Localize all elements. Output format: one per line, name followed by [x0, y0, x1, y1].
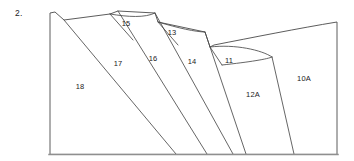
- unit-label-12a: 12A: [246, 90, 260, 99]
- unit-label-14: 14: [188, 57, 197, 66]
- unit-label-18: 18: [76, 82, 85, 91]
- unit-label-13: 13: [168, 28, 177, 37]
- figure-container: 2. 18 17 15 16 13 14 11 12A 10A: [0, 0, 354, 161]
- unit-label-10a: 10A: [297, 74, 311, 83]
- cross-section-diagram: 18 17 15 16 13 14 11 12A 10A: [0, 0, 354, 161]
- unit-label-16: 16: [149, 54, 158, 63]
- unit-label-17: 17: [114, 59, 123, 68]
- unit-label-15: 15: [122, 19, 131, 28]
- unit-label-11: 11: [225, 56, 233, 65]
